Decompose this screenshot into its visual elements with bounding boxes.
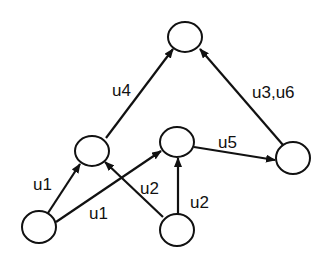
node-left-mid (75, 136, 109, 166)
edge-label-u1-bottom: u1 (89, 204, 108, 223)
node-bottom-left (22, 211, 56, 243)
node-top (168, 22, 202, 52)
edge-label-u1-left: u1 (33, 175, 52, 194)
edge-label-u4: u4 (112, 81, 131, 100)
node-center-mid (160, 127, 194, 157)
edge-bottomleft-to-leftmid (48, 164, 80, 213)
edge-label-u3u6: u3,u6 (252, 83, 295, 102)
edge-label-u5: u5 (218, 133, 237, 152)
graph-canvas: u4 u3,u6 u5 u1 u2 u2 u1 (0, 0, 331, 259)
node-right (276, 142, 310, 174)
edge-label-u2-right: u2 (190, 193, 209, 212)
node-bottom-center (160, 214, 194, 246)
edge-label-u2-mid: u2 (140, 179, 159, 198)
